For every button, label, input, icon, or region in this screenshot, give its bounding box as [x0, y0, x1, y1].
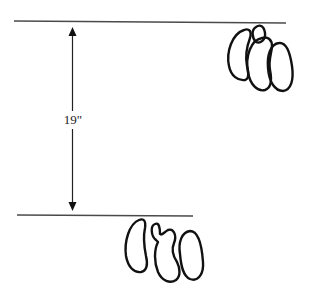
hoof-print-cluster-hind	[126, 219, 204, 281]
hoof-print-icon	[179, 231, 203, 280]
hoof-print-icon	[126, 219, 147, 272]
arrow-down-icon	[69, 202, 77, 211]
stride-diagram	[0, 0, 309, 295]
hoof-print-cluster-front	[228, 26, 292, 91]
hoof-print-icon	[152, 224, 180, 282]
bottom-reference-line	[17, 215, 193, 216]
arrow-up-icon	[69, 27, 77, 36]
hoof-print-icon	[268, 43, 293, 91]
measurement-label: 19"	[58, 111, 88, 129]
top-reference-line	[14, 21, 286, 23]
